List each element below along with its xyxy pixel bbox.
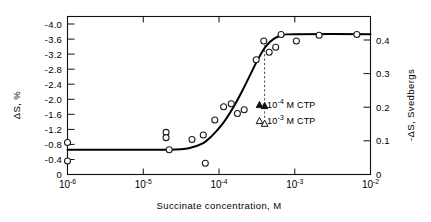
sigmoid-fit-curve <box>68 34 371 150</box>
data-point <box>189 137 195 143</box>
y-axis-left-tick-labels: -4.0 -3.6 -3.2 -2.8 -2.4 -2.0 -1.6 -1.2 … <box>45 19 62 181</box>
data-point <box>266 49 272 55</box>
data-point <box>163 135 169 141</box>
x-axis-ticks <box>68 17 371 175</box>
x-tick-exp-1: -5 <box>146 178 152 185</box>
y-left-tick-label-0: -4.0 <box>45 19 62 30</box>
y-axis-left-title: ΔS, % <box>11 91 22 120</box>
figure-container: 10-6 10-5 10-4 10-3 10-2 Succinate conce… <box>0 0 431 222</box>
data-point <box>212 117 218 123</box>
y-left-tick-label-8: -0.8 <box>45 139 62 150</box>
y-left-tick-label-5: -2.0 <box>45 94 62 105</box>
x-tick-exp-3: -3 <box>297 178 303 185</box>
y-axis-left-ticks <box>68 24 75 175</box>
open-triangle-icon <box>256 117 263 123</box>
frame-rect <box>68 17 371 175</box>
annotation-tail-0: M CTP <box>284 100 316 110</box>
x-tick-exp-0: -6 <box>70 178 76 185</box>
y-left-tick-label-6: -1.6 <box>45 109 62 120</box>
data-point <box>202 160 208 166</box>
y-left-tick-label-2: -3.2 <box>45 49 62 60</box>
y-left-tick-label-4: -2.4 <box>45 79 62 90</box>
plot-frame <box>68 17 371 175</box>
data-point <box>273 44 279 50</box>
y-left-tick-label-3: -2.8 <box>45 64 62 75</box>
data-point <box>228 101 234 107</box>
data-point <box>241 107 247 113</box>
data-point <box>200 132 206 138</box>
y-left-tick-label-10: 0 <box>57 169 62 180</box>
data-point <box>253 57 259 63</box>
x-axis-tick-labels: 10-6 10-5 10-4 10-3 10-2 <box>59 178 379 190</box>
y-left-tick-label-7: -1.2 <box>45 124 62 135</box>
x-tick-label-2: 10-4 <box>210 178 227 190</box>
annotation-tail-1: M CTP <box>284 116 316 126</box>
y-axis-right-tick-labels: 0.4 0.3 0.2 0.1 0 <box>376 35 390 181</box>
data-point <box>234 111 240 117</box>
data-point <box>65 140 71 146</box>
data-point <box>278 32 284 38</box>
y-right-tick-label-3: 0.1 <box>376 135 390 146</box>
x-axis-title: Succinate concentration, M <box>157 200 282 211</box>
data-point <box>354 32 360 38</box>
data-point <box>316 32 322 38</box>
y-left-tick-label-1: -3.6 <box>45 34 62 45</box>
annotation-label-0: 10-4 M CTP <box>267 98 316 110</box>
y-axis-right-ticks <box>364 40 371 175</box>
y-right-tick-label-4: 0 <box>376 169 381 180</box>
data-point <box>166 147 172 153</box>
data-point <box>221 104 227 110</box>
y-right-tick-label-2: 0.2 <box>376 102 390 113</box>
data-point <box>293 38 299 44</box>
annotation-label-1: 10-3 M CTP <box>267 114 316 126</box>
y-right-tick-label-1: 0.3 <box>376 68 390 79</box>
data-point <box>65 158 71 164</box>
y-right-tick-label-0: 0.4 <box>376 35 390 46</box>
x-tick-label-3: 10-3 <box>286 178 303 190</box>
x-tick-exp-2: -4 <box>222 178 228 185</box>
filled-triangle-icon <box>256 101 263 107</box>
succinate-titration-chart: 10-6 10-5 10-4 10-3 10-2 Succinate conce… <box>0 0 431 222</box>
data-point <box>261 38 267 44</box>
y-left-tick-label-9: -0.4 <box>45 154 62 165</box>
x-tick-label-1: 10-5 <box>135 178 152 190</box>
y-axis-right-title: -ΔS, Svedbergs <box>405 69 416 141</box>
data-points-succinate <box>65 32 360 167</box>
